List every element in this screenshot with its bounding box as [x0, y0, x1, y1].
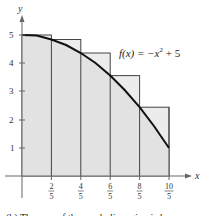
function-label: f(x) = −x2 + 5: [119, 46, 181, 60]
y-axis-arrow-icon: [20, 15, 25, 22]
y-tick-label-4: 4: [9, 58, 14, 68]
svg-text:2: 2: [49, 182, 53, 191]
figure-caption: (b) The area of the parabolic region is …: [6, 212, 175, 216]
y-tick-label-3: 3: [9, 86, 14, 96]
svg-text:5: 5: [49, 192, 53, 201]
svg-text:5: 5: [138, 192, 142, 201]
svg-text:5: 5: [167, 192, 171, 201]
svg-text:5: 5: [79, 192, 83, 201]
x-tick-label-6-5: 6 5: [107, 182, 113, 201]
x-tick-label-10-5: 10 5: [165, 182, 174, 201]
y-axis-label: y: [17, 3, 23, 14]
x-tick-label-2-5: 2 5: [49, 182, 55, 201]
svg-text:5: 5: [108, 192, 112, 201]
y-tick-label-1: 1: [10, 143, 15, 153]
y-tick-label-5: 5: [9, 30, 14, 40]
x-ticks: [51, 176, 169, 180]
x-axis-arrow-icon: [185, 174, 192, 179]
x-axis-label: x: [194, 170, 200, 181]
x-tick-label-4-5: 4 5: [78, 182, 84, 201]
svg-text:4: 4: [79, 182, 83, 191]
riemann-sum-figure: 1 2 3 4 5 2 5 4 5 6 5 8 5 10 5 x y f(x): [0, 0, 206, 216]
svg-text:10: 10: [165, 182, 173, 191]
svg-text:6: 6: [108, 182, 112, 191]
y-tick-label-2: 2: [9, 115, 14, 125]
x-tick-label-8-5: 8 5: [137, 182, 143, 201]
svg-text:8: 8: [138, 182, 142, 191]
